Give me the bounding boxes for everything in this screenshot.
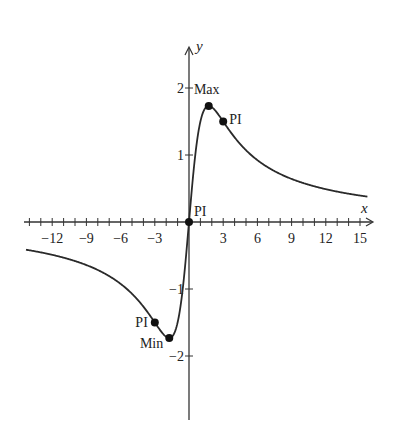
x-tick-label: 6 bbox=[254, 231, 261, 246]
point-pi bbox=[151, 319, 159, 327]
point-label: PI bbox=[229, 112, 242, 127]
function-graph: −12−9−6−3369121521−1−2xy MaxPIPIPIMin bbox=[0, 0, 396, 436]
point-label: PI bbox=[194, 204, 207, 219]
x-tick-label: 3 bbox=[220, 231, 227, 246]
y-tick-label: 2 bbox=[177, 81, 184, 96]
point-label: PI bbox=[135, 315, 148, 330]
point-label: Min bbox=[140, 336, 163, 351]
point-min bbox=[165, 334, 173, 342]
x-axis-label: x bbox=[360, 200, 368, 216]
point-pi bbox=[185, 218, 193, 226]
y-axis-label: y bbox=[194, 38, 203, 54]
point-pi bbox=[219, 118, 227, 126]
x-tick-label: 15 bbox=[353, 231, 367, 246]
x-tick-label: −6 bbox=[113, 231, 128, 246]
x-tick-label: 12 bbox=[319, 231, 333, 246]
point-max bbox=[205, 102, 213, 110]
x-tick-label: −12 bbox=[41, 231, 63, 246]
x-tick-label: 9 bbox=[288, 231, 295, 246]
x-tick-label: −9 bbox=[79, 231, 94, 246]
y-tick-label: −2 bbox=[169, 349, 184, 364]
point-label: Max bbox=[194, 82, 220, 97]
x-tick-label: −3 bbox=[147, 231, 162, 246]
y-tick-label: 1 bbox=[177, 148, 184, 163]
